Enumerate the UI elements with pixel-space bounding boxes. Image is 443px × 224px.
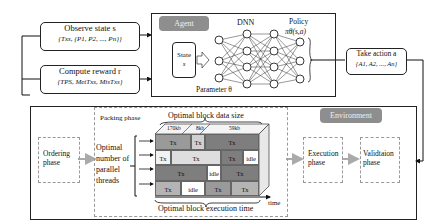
tx-cell: Tx	[155, 165, 207, 181]
ordering-phase-box: Ordering phase	[38, 137, 80, 183]
idle-cell: idle	[243, 150, 259, 166]
size-label-3: 59kb	[229, 125, 240, 131]
environment-tag: Environment	[320, 108, 382, 123]
data-size-label: Optimal block data size	[168, 111, 244, 120]
take-action-formula: {A1, A2, ..., An}	[347, 59, 406, 69]
tx-cell: Tx	[155, 134, 191, 150]
observe-state-box: Observe state s {Txs, {P1, P2, ..., Pn}}	[40, 22, 140, 51]
thread-row-4: Tx idle Tx Tx	[155, 181, 259, 197]
execution-phase-label: Execution phase	[308, 149, 342, 167]
compute-reward-formula: {TPS, MetTxs, MisTxs}	[41, 77, 139, 87]
tx-cell: Tx	[221, 165, 259, 181]
exec-time-label: Optimal block execution time	[158, 204, 253, 213]
state-label: State	[173, 51, 195, 60]
observe-state-formula: {Txs, {P1, P2, ..., Pn}}	[41, 34, 139, 44]
state-var: s	[173, 60, 195, 69]
ordering-phase-label: Ordering phase	[43, 149, 79, 167]
time-axis-label: time	[268, 199, 280, 208]
thread-row-3: Tx idle Tx	[155, 165, 259, 181]
size-label-2: 8kb	[196, 125, 204, 131]
observe-state-title: Observe state s	[41, 23, 139, 34]
block-grid: Tx Tx Tx Tx Tx Tx idle Tx idle Tx Tx idl…	[155, 134, 259, 196]
parameter-label: Parameter θ	[196, 85, 232, 94]
take-action-title: Take action a	[347, 49, 406, 59]
validation-phase-label: Validtaion phase	[363, 149, 399, 167]
size-label-1: 170kb	[167, 125, 181, 131]
packing-phase-label: Packing phase	[100, 114, 140, 123]
execution-phase-box: Execution phase	[303, 137, 343, 183]
compute-reward-title: Compute reward r	[41, 66, 139, 77]
validation-phase-box: Validtaion phase	[360, 137, 400, 183]
tx-cell: Tx	[191, 134, 205, 150]
agent-tag: Agent	[159, 16, 209, 31]
thread-row-2: Tx Tx Tx idle	[155, 150, 259, 166]
dnn-label: DNN	[237, 18, 254, 27]
tx-cell: Tx	[155, 150, 171, 166]
policy-label: Policy	[289, 17, 308, 26]
threads-label: Optimal number of parallel threads	[96, 142, 134, 186]
tx-cell: Tx	[231, 181, 259, 197]
tx-cell: Tx	[171, 150, 221, 166]
tx-cell: Tx	[155, 181, 181, 197]
compute-reward-box: Compute reward r {TPS, MetTxs, MisTxs}	[40, 65, 140, 94]
idle-cell: idle	[207, 165, 221, 181]
tx-cell: Tx	[221, 150, 243, 166]
idle-cell: idle	[181, 181, 205, 197]
policy-formula: πθ(s,a)	[285, 27, 306, 36]
thread-row-1: Tx Tx Tx	[155, 134, 259, 150]
take-action-box: Take action a {A1, A2, ..., An}	[346, 48, 407, 75]
state-box: State s	[172, 42, 196, 78]
tx-cell: Tx	[205, 181, 231, 197]
tx-cell: Tx	[205, 134, 259, 150]
